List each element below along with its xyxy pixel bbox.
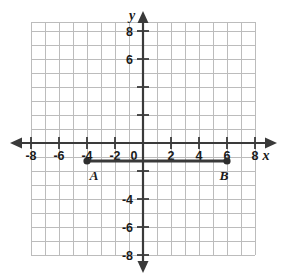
coordinate-plane-svg: -8 -6 -4 -2 0 2 4 6 8 8 6 -4 -6 -8 x y A [0,0,289,276]
y-tick-label-neg4: -4 [122,193,133,207]
point-a-marker [83,157,90,164]
x-tick-label-neg8: -8 [25,149,36,163]
coordinate-plane-figure: -8 -6 -4 -2 0 2 4 6 8 8 6 -4 -6 -8 x y A [0,0,289,276]
y-axis-label: y [127,8,136,23]
point-b-marker [223,157,230,164]
y-tick-label-8: 8 [126,25,133,39]
x-axis-label: x [262,148,270,163]
point-b-label: B [218,168,228,183]
point-a-label: A [88,168,98,183]
figure-background [0,0,289,276]
y-tick-label-6: 6 [126,53,133,67]
x-tick-label-neg6: -6 [53,149,64,163]
y-tick-label-neg8: -8 [122,249,133,263]
x-tick-label-8: 8 [252,149,259,163]
y-tick-label-neg6: -6 [122,221,133,235]
